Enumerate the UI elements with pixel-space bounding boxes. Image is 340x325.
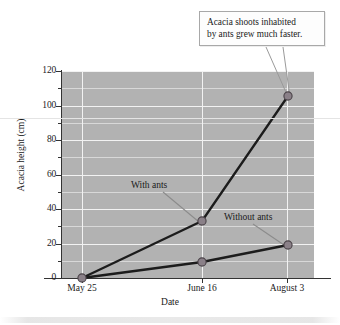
- with-ants-leader-line: [163, 192, 199, 222]
- series-layer: [0, 0, 340, 325]
- callout-box: Acacia shoots inhabited by ants grew muc…: [199, 11, 325, 46]
- series-line-without-ants: [82, 245, 288, 278]
- without-ants-leader-line: [253, 224, 284, 245]
- marker-origin: [78, 274, 86, 282]
- series-label-without-ants: Without ants: [224, 212, 272, 222]
- data-point-markers: [78, 92, 292, 282]
- callout-leader-line-right: [283, 47, 290, 97]
- acacia-growth-chart-figure: 120 100 80 60 40 20 0 May 25 June 16 Aug…: [0, 0, 340, 325]
- series-label-with-ants: With ants: [131, 180, 167, 190]
- callout-text-line-1: Acacia shoots inhabited: [207, 17, 318, 29]
- callout-leader-line-left: [266, 47, 288, 97]
- marker-without-ants-june-16: [198, 258, 206, 266]
- marker-without-ants-august-3: [284, 241, 292, 249]
- scan-artifact-line: [0, 118, 340, 119]
- marker-with-ants-june-16: [198, 217, 206, 225]
- cropped-caption-ghost: [0, 317, 340, 323]
- callout-text-line-2: by ants grew much faster.: [207, 29, 318, 41]
- marker-with-ants-august-3: [284, 92, 292, 100]
